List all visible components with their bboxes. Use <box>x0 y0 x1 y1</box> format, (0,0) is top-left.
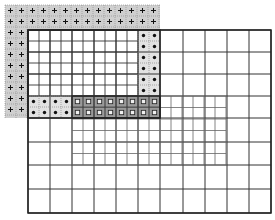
square-icon <box>119 110 123 114</box>
square-icon <box>86 110 90 114</box>
dot-icon <box>153 89 156 92</box>
dot-icon <box>153 67 156 70</box>
square-icon <box>152 110 156 114</box>
dot-icon <box>153 34 156 37</box>
dot-icon <box>32 100 35 103</box>
square-icon <box>75 110 79 114</box>
square-icon <box>141 110 145 114</box>
dot-icon <box>32 111 35 114</box>
dot-icon <box>142 45 145 48</box>
square-icon <box>75 99 79 103</box>
dot-icon <box>142 78 145 81</box>
dot-icon <box>142 34 145 37</box>
square-icon <box>130 110 134 114</box>
dot-icon <box>43 100 46 103</box>
square-icon <box>152 99 156 103</box>
square-icon <box>108 99 112 103</box>
dot-icon <box>142 89 145 92</box>
dot-icon <box>54 100 57 103</box>
square-icon <box>130 99 134 103</box>
square-icon <box>97 110 101 114</box>
square-icon <box>141 99 145 103</box>
square-icon <box>86 99 90 103</box>
dot-icon <box>153 56 156 59</box>
square-icon <box>97 99 101 103</box>
dot-icon <box>65 111 68 114</box>
dot-icon <box>43 111 46 114</box>
dot-icon <box>65 100 68 103</box>
square-icon <box>119 99 123 103</box>
grid-diagram <box>0 0 275 220</box>
dot-icon <box>54 111 57 114</box>
square-icon <box>108 110 112 114</box>
dot-icon <box>142 56 145 59</box>
dot-icon <box>153 78 156 81</box>
dot-icon <box>153 45 156 48</box>
dot-icon <box>142 67 145 70</box>
